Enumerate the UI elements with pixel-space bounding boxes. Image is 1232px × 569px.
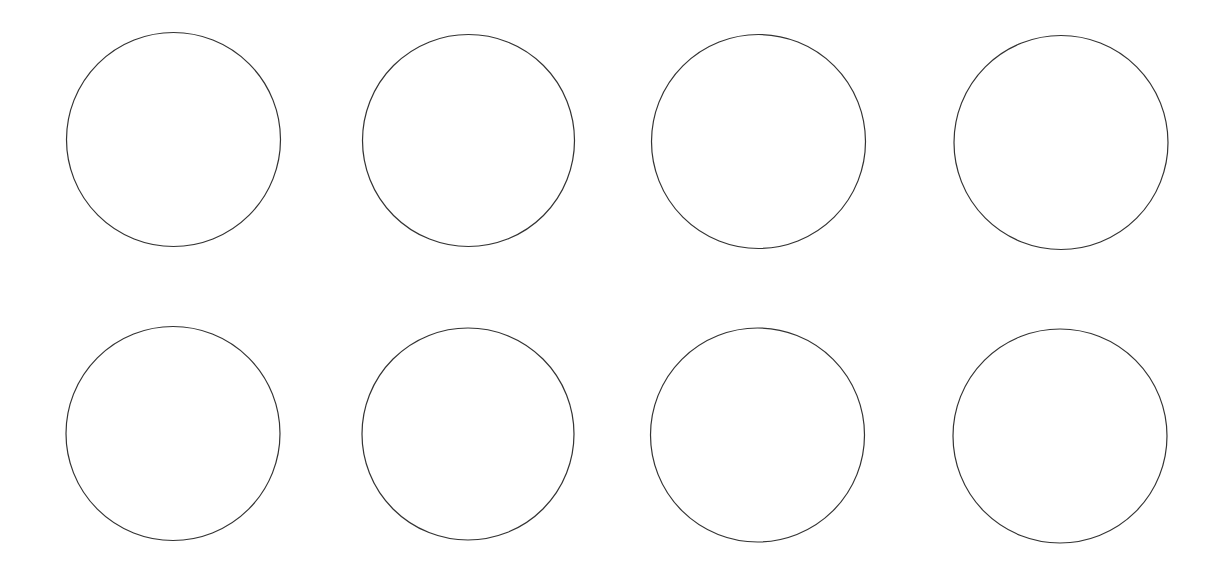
circle-r1-c1 bbox=[67, 33, 281, 247]
circle-r2-c2 bbox=[362, 328, 574, 540]
circle-r1-c4 bbox=[954, 36, 1168, 250]
circle-r2-c3 bbox=[651, 328, 865, 542]
circle-r2-c1 bbox=[66, 327, 280, 541]
circle-r1-c3 bbox=[652, 35, 866, 249]
circle-grid bbox=[0, 0, 1232, 569]
circle-r2-c4 bbox=[953, 329, 1167, 543]
diagram-canvas bbox=[0, 0, 1232, 569]
circle-r1-c2 bbox=[363, 35, 575, 247]
circle-group bbox=[66, 33, 1168, 544]
